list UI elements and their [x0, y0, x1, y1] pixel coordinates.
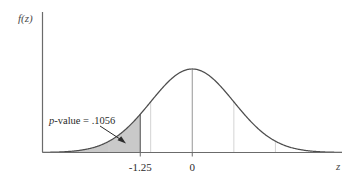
tick-label-critical: -1.25	[129, 161, 152, 173]
pvalue-normal-curve-figure: f(z) z -1.25 0 p-value = .1056	[0, 0, 355, 185]
x-axis-ticks	[140, 153, 192, 157]
pvalue-annotation-rest: -value = .1056	[54, 115, 115, 126]
tick-label-mean: 0	[190, 161, 196, 173]
plot-canvas: f(z) z -1.25 0 p-value = .1056	[0, 0, 355, 185]
pvalue-annotation: p-value = .1056	[48, 115, 115, 126]
y-axis-label: f(z)	[18, 12, 33, 25]
x-axis-label: z	[335, 160, 341, 172]
